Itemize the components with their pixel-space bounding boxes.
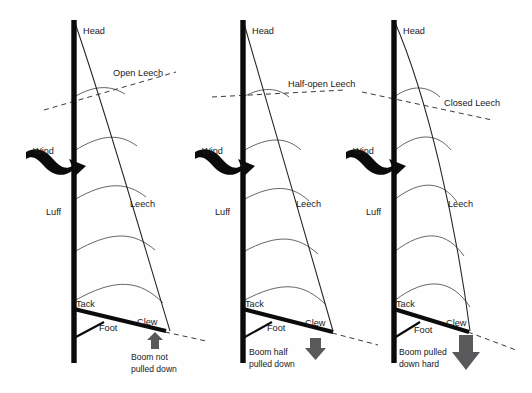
- luff-label-3: Luff: [366, 207, 382, 217]
- clew-label-1: Clew: [137, 317, 158, 327]
- tack-label-1: Tack: [76, 299, 95, 309]
- boom-caption-1-line2: pulled down: [131, 364, 177, 374]
- sail-shading-3: [394, 20, 482, 330]
- leech-label-1: Leech: [130, 199, 155, 209]
- head-label-1: Head: [83, 26, 105, 36]
- boom-caption-3-line2: down hard: [399, 359, 439, 369]
- panel-closed-leech: Head Closed Leech Wind Luff Leech Tack C…: [346, 20, 516, 370]
- head-label-2: Head: [252, 26, 274, 36]
- leech-state-label-3: Closed Leech: [444, 98, 500, 108]
- foot-reference-dash-1: [165, 332, 206, 341]
- luff-label-1: Luff: [46, 207, 62, 217]
- leech-state-label-2: Half-open Leech: [288, 79, 355, 89]
- sail-shading-2: [243, 20, 346, 330]
- diagram-canvas: Head Open Leech Wind Luff Leech Tack Cle…: [0, 0, 532, 393]
- boom-force-arrow-2: [305, 338, 326, 360]
- boom-force-arrow-1: [147, 332, 163, 349]
- wind-label-2: Wind: [202, 146, 223, 156]
- leech-label-2: Leech: [296, 199, 321, 209]
- boom-caption-2-line2: pulled down: [249, 359, 295, 369]
- clew-label-2: Clew: [305, 318, 326, 328]
- tack-label-3: Tack: [396, 299, 415, 309]
- tack-label-2: Tack: [245, 299, 264, 309]
- foot-label-3: Foot: [414, 325, 433, 335]
- foot-reference-dash-3: [468, 332, 516, 350]
- wind-label-1: Wind: [33, 146, 54, 156]
- leech-state-label-1: Open Leech: [113, 68, 163, 78]
- head-label-3: Head: [403, 26, 425, 36]
- panel-half-open-leech: Head Half-open Leech Wind Luff Leech Tac…: [195, 20, 378, 369]
- clew-label-3: Clew: [446, 318, 467, 328]
- leech-curve-2: [243, 20, 333, 331]
- boom-force-arrow-3: [452, 335, 480, 370]
- boom-caption-1-line1: Boom not: [131, 352, 168, 362]
- foot-label-1: Foot: [99, 323, 118, 333]
- luff-label-2: Luff: [215, 207, 231, 217]
- leech-label-3: Leech: [448, 199, 473, 209]
- foot-reference-dash-2: [332, 333, 378, 345]
- sail-trim-diagram: Head Open Leech Wind Luff Leech Tack Cle…: [0, 0, 532, 393]
- sail-battens-1: [74, 88, 163, 303]
- sail-battens-2: [243, 89, 326, 305]
- boom-caption-2-line1: Boom half: [249, 347, 288, 357]
- wind-label-3: Wind: [353, 146, 374, 156]
- sail-battens-3: [394, 88, 470, 307]
- panel-open-leech: Head Open Leech Wind Luff Leech Tack Cle…: [26, 20, 206, 374]
- foot-label-2: Foot: [267, 323, 286, 333]
- boom-caption-3-line1: Boom pulled: [399, 347, 447, 357]
